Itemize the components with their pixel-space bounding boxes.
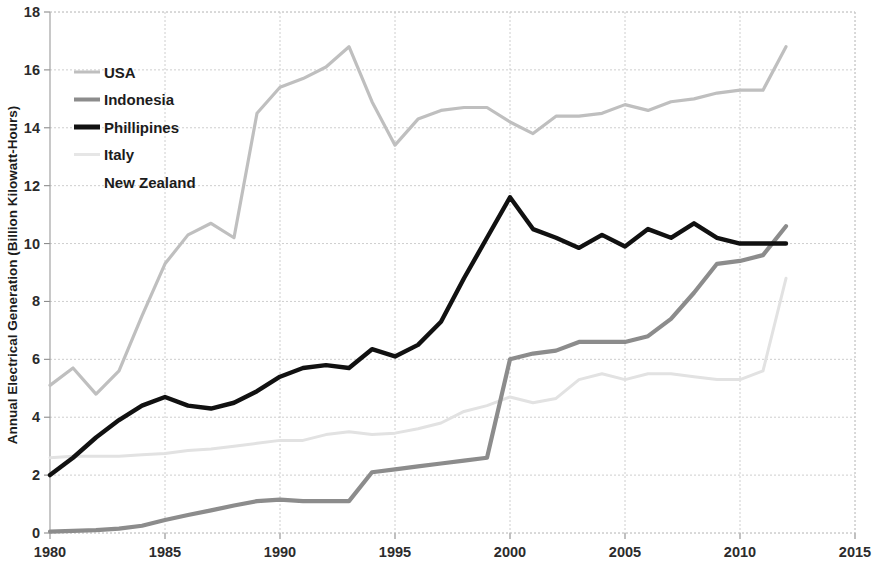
y-axis-tick-labels: 024681012141618 <box>24 4 40 541</box>
legend-swatch-italy <box>74 153 100 156</box>
x-axis-tick-label: 2010 <box>724 544 756 560</box>
y-axis-tick-label: 14 <box>24 120 40 136</box>
legend-label-new-zealand: New Zealand <box>104 174 196 191</box>
legend-label-phillipines: Phillipines <box>104 119 179 136</box>
y-axis-tick-label: 8 <box>32 293 40 309</box>
y-axis-tick-label: 18 <box>24 4 40 20</box>
legend-label-italy: Italy <box>104 146 135 163</box>
x-axis-tick-label: 1980 <box>34 544 66 560</box>
chart-container: 024681012141618 198019851990199520002005… <box>0 0 874 563</box>
x-axis-tick-labels: 19801985199019952000200520102015 <box>34 544 871 560</box>
line-chart: 024681012141618 198019851990199520002005… <box>0 0 874 563</box>
x-axis-tick-label: 2000 <box>494 544 526 560</box>
x-axis-tick-label: 2005 <box>609 544 641 560</box>
legend-label-indonesia: Indonesia <box>104 91 175 108</box>
y-axis-title: Annual Electrical Generation (Billion Ki… <box>5 106 20 444</box>
series-line-phillipines <box>50 197 786 475</box>
legend-swatch-phillipines <box>74 125 100 130</box>
y-axis-tick-label: 6 <box>32 351 40 367</box>
y-axis-tick-label: 10 <box>24 236 40 252</box>
y-axis-tick-label: 0 <box>32 525 40 541</box>
series-line-italy <box>50 278 786 457</box>
legend-swatch-indonesia <box>74 98 100 102</box>
legend-label-usa: USA <box>104 64 136 81</box>
y-axis-tick-label: 16 <box>24 62 40 78</box>
legend-swatch-usa <box>74 71 100 74</box>
chart-legend: USAIndonesiaPhillipinesItalyNew Zealand <box>74 64 196 191</box>
x-axis-tick-label: 1985 <box>149 544 181 560</box>
y-axis-tick-label: 2 <box>32 467 40 483</box>
y-axis-tick-label: 4 <box>32 409 40 425</box>
x-axis-tick-label: 1995 <box>379 544 411 560</box>
x-axis-tick-label: 1990 <box>264 544 296 560</box>
y-axis-tick-label: 12 <box>24 178 40 194</box>
x-axis-tick-label: 2015 <box>839 544 871 560</box>
